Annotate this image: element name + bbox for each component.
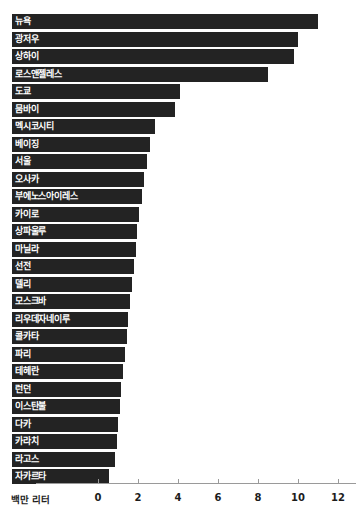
bar-label: 리우데자네이루 [15,312,70,327]
bar-label: 오사카 [15,172,38,187]
bar-label: 로스앤젤레스 [15,67,62,82]
x-axis-tick-mark [218,479,219,484]
bar-label: 선전 [15,259,31,274]
x-axis-tick-label: 8 [243,492,273,503]
x-axis-tick-mark [98,479,99,484]
plot-area: 뉴욕광저우상하이로스앤젤레스도쿄뭄바이멕시코시티베이징서울오사카부에노스아이레스… [0,12,359,483]
x-axis-tick-mark [298,479,299,484]
bar-label: 카이로 [15,207,38,222]
bar-label: 다카 [15,417,31,432]
bar-label: 광저우 [15,32,38,47]
bar-label: 서울 [15,154,31,169]
x-axis-tick-mark [338,479,339,484]
x-axis-tick-mark [178,479,179,484]
x-axis-tick-mark [138,479,139,484]
chart-title-sliver [40,0,190,8]
bar-label: 멕시코시티 [15,119,54,134]
bar-label: 상파울루 [15,224,46,239]
x-axis-tick-label: 4 [163,492,193,503]
bar-label: 이스탄불 [15,399,46,414]
bar-label: 런던 [15,382,31,397]
x-axis-tick-label: 2 [123,492,153,503]
x-axis-tick-label: 10 [283,492,313,503]
bar-label: 라고스 [15,452,38,467]
bar-label: 테헤란 [15,364,38,379]
x-axis-title: 백만 리터 [11,492,50,506]
bar [12,49,294,64]
bar-label: 상하이 [15,49,38,64]
bar-label: 자카르타 [15,469,46,484]
x-axis-tick-mark [258,479,259,484]
bar-label: 뭄바이 [15,102,38,117]
x-axis-tick-label: 6 [203,492,233,503]
bar [12,84,180,99]
bar-label: 부에노스아이레스 [15,189,77,204]
bar-label: 콜카타 [15,329,38,344]
bar-chart: 뉴욕광저우상하이로스앤젤레스도쿄뭄바이멕시코시티베이징서울오사카부에노스아이레스… [0,0,359,520]
bar-label: 베이징 [15,137,38,152]
bar-label: 파리 [15,347,31,362]
bar-label: 도쿄 [15,84,31,99]
bar [12,154,147,169]
x-axis-line [36,483,356,484]
x-axis-tick-label: 0 [83,492,113,503]
bar [12,14,318,29]
bar-label: 모스크바 [15,294,46,309]
bar [12,32,298,47]
x-axis-tick-label: 12 [323,492,353,503]
bar-label: 카라치 [15,434,38,449]
bar-label: 델리 [15,277,31,292]
bar-label: 마닐라 [15,242,38,257]
bar-label: 뉴욕 [15,14,31,29]
